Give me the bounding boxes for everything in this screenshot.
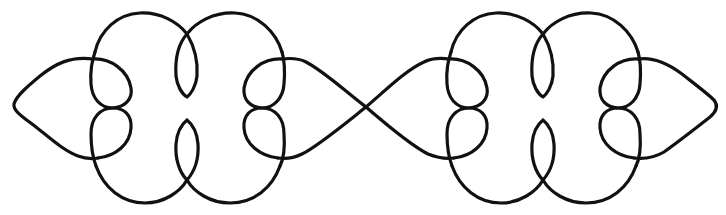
center-lower-lens (176, 120, 198, 180)
left-lobe-upper-arm (366, 58, 449, 107)
left-big-arc-top (451, 13, 543, 52)
knot-unit-right (366, 13, 716, 203)
left-lower-loop (447, 108, 487, 166)
right-big-arc-bottom (543, 166, 636, 203)
right-lobe-lower-arm (278, 107, 366, 158)
left-big-arc-bottom (452, 166, 543, 203)
right-big-arc-top (543, 13, 638, 52)
right-upper-loop (600, 52, 641, 108)
center-upper-lens (532, 34, 553, 97)
right-lobe-upper-arm (282, 58, 366, 107)
left-upper-loop (447, 52, 488, 108)
center-upper-lens (176, 34, 197, 97)
right-big-arc-bottom (187, 166, 280, 203)
left-lower-loop (91, 108, 131, 166)
center-lower-lens (532, 120, 554, 180)
knot-unit-left (14, 13, 366, 203)
right-lobe (634, 59, 716, 159)
left-lobe (14, 58, 98, 158)
left-big-arc-bottom (96, 166, 187, 203)
left-upper-loop (91, 52, 132, 108)
right-upper-loop (244, 52, 285, 108)
right-big-arc-top (187, 13, 282, 52)
knot-figure (0, 0, 726, 215)
left-big-arc-top (95, 13, 187, 52)
left-lobe-lower-arm (366, 107, 454, 158)
